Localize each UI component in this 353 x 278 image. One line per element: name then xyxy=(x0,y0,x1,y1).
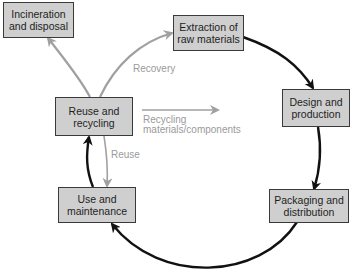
label-recovery: Recovery xyxy=(133,64,175,74)
arrow-use-to-reuse xyxy=(87,137,93,187)
label-reuse: Reuse xyxy=(111,150,140,160)
arrow-reuse-to-incineration xyxy=(48,38,90,97)
node-design-and-production: Design and production xyxy=(282,89,350,127)
node-use-and-maintenance: Use and maintenance xyxy=(58,187,136,223)
node-reuse-and-recycling: Reuse and recycling xyxy=(55,97,133,136)
node-extraction-of-raw-materials: Extraction of raw materials xyxy=(173,15,244,51)
label-recycling-materials-components: Recycling materials/components xyxy=(143,115,241,135)
node-incineration-and-disposal: Incineration and disposal xyxy=(3,2,74,38)
arrow-reuse-to-use xyxy=(104,136,107,186)
arrow-extraction-to-design xyxy=(243,37,313,88)
arrow-packaging-to-use xyxy=(112,222,297,268)
node-packaging-and-distribution: Packaging and distribution xyxy=(269,189,349,223)
arrow-design-to-packaging xyxy=(314,127,320,189)
